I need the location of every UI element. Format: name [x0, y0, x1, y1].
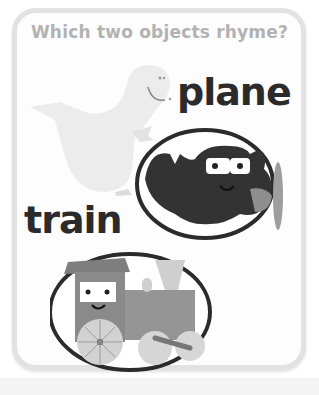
bottom-strip	[0, 378, 319, 395]
word-plane[interactable]: plane	[177, 70, 291, 114]
airplane-icon[interactable]	[130, 124, 290, 242]
word-train[interactable]: train	[24, 198, 122, 242]
question-text: Which two objects rhyme?	[0, 22, 319, 42]
train-icon[interactable]	[50, 250, 220, 372]
